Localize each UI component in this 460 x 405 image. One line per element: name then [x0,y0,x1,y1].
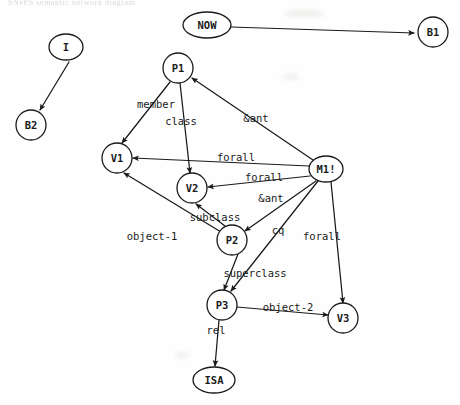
node-label: B1 [427,26,440,38]
node-layer: NOWB1IB2P1V1M1!V2P2P3V3ISA [16,12,448,393]
edge-label: &ant [243,112,268,124]
node-label: M1! [317,163,336,175]
edge-i-b2[interactable] [40,62,69,110]
edge-label: &ant [258,192,283,204]
node-label: V3 [337,312,350,324]
node-label: P1 [172,62,185,74]
graph-svg: memberclass&antforallforall&antsubclasso… [0,0,460,405]
node-label: NOW [198,19,218,31]
node-isa[interactable]: ISA [193,367,235,393]
node-p2[interactable]: P2 [217,225,247,255]
node-label: V1 [111,152,124,164]
edge-label: forall [245,171,283,183]
node-b1[interactable]: B1 [418,17,448,47]
node-p3[interactable]: P3 [207,290,237,320]
edge-now-b1[interactable] [231,27,414,33]
edge-p2-v1[interactable] [124,173,221,232]
node-p1[interactable]: P1 [163,53,193,83]
node-label: B2 [25,119,38,131]
edge-label: forall [303,230,341,242]
node-now[interactable]: NOW [183,12,231,38]
node-b2[interactable]: B2 [16,110,46,140]
node-v3[interactable]: V3 [328,303,358,333]
edge-m1-v3[interactable] [331,182,343,303]
edge-label: class [165,115,197,127]
node-label: V2 [186,182,199,194]
node-i[interactable]: I [49,34,83,60]
edge-label: object-1 [127,230,178,242]
diagram-canvas: SNePS semantic network diagram membercla… [0,0,460,405]
edge-p1-v1[interactable] [122,82,170,143]
edge-label: object-2 [263,301,314,313]
edge-label: rel [207,324,226,336]
node-label: ISA [205,374,225,386]
edge-label: forall [217,151,255,163]
node-m1[interactable]: M1! [309,156,343,182]
node-label: P3 [216,299,229,311]
edge-p1-v2[interactable] [180,83,190,173]
edge-label: member [137,98,175,110]
edge-label: superclass [223,267,286,279]
node-label: P2 [226,234,239,246]
node-v1[interactable]: V1 [102,143,132,173]
edge-label: subclass [190,211,241,223]
node-v2[interactable]: V2 [177,173,207,203]
node-label: I [63,41,69,53]
edge-label: cq [272,224,285,236]
